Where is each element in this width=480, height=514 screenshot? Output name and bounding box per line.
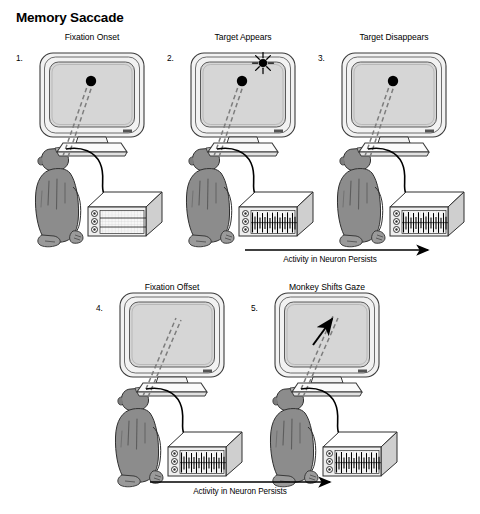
neural-recorder [323, 432, 397, 476]
panel-caption: Target Disappears [360, 32, 429, 42]
panel-4: Fixation Offset 4. [96, 282, 242, 487]
panel-1: Fixation Onset 1. [16, 32, 162, 247]
crt-monitor [275, 293, 379, 396]
monkey-figure [115, 387, 163, 487]
panel-number: 4. [96, 303, 103, 313]
panel-5: Monkey Shifts Gaze 5. [251, 282, 397, 487]
panel-number: 1. [16, 53, 23, 63]
panel-caption: Target Appears [214, 32, 271, 42]
panel-caption: Fixation Onset [65, 32, 120, 42]
crt-monitor [191, 53, 295, 156]
neural-recorder [390, 192, 464, 236]
panel-number: 3. [318, 53, 325, 63]
fixation-dot [388, 76, 398, 86]
monkey-figure [337, 147, 385, 247]
crt-monitor [342, 53, 446, 156]
neural-recorder [168, 432, 242, 476]
neural-recorder [88, 192, 162, 236]
panel-number: 5. [251, 303, 258, 313]
monkey-figure [35, 147, 83, 247]
monkey-figure [270, 387, 318, 487]
neural-recorder [239, 192, 313, 236]
panel-caption: Monkey Shifts Gaze [289, 282, 365, 292]
row-1-progression-arrow: Activity in Neuron Persists [245, 250, 428, 264]
figure-title: Memory Saccade [16, 10, 124, 25]
panel-number: 2. [167, 53, 174, 63]
fixation-dot [237, 76, 247, 86]
panel-caption: Fixation Offset [145, 282, 200, 292]
row-1-arrow-label: Activity in Neuron Persists [283, 255, 377, 264]
memory-saccade-figure: Memory Saccade Fixation Onset 1. Target … [0, 0, 480, 514]
crt-monitor [120, 293, 224, 396]
panel-2: Target Appears 2. [167, 32, 313, 247]
row-2-progression-arrow: Activity in Neuron Persists [150, 482, 330, 496]
target-starburst-icon [253, 53, 274, 74]
fixation-dot [86, 76, 96, 86]
crt-monitor [40, 53, 144, 156]
monkey-figure [186, 147, 234, 247]
panel-3: Target Disappears 3. [318, 32, 464, 247]
row-2-arrow-label: Activity in Neuron Persists [193, 487, 287, 496]
